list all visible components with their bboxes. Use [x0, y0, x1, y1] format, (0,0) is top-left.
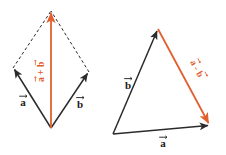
dashed-edge-left [13, 11, 51, 68]
vector-a-arrow-right-diagram [113, 126, 208, 134]
label-vector-a-right-diagram: a [159, 136, 167, 149]
label-vector-b-left-diagram: b [76, 96, 84, 110]
label-vector-a-minus-b: a - b [188, 58, 208, 82]
label-vector-a-minus-b-text: a - b [188, 58, 205, 79]
label-vector-a-left-diagram: a [19, 95, 27, 108]
label-vector-a-plus-b-text: a + b [36, 62, 46, 82]
vector-diagram-figure: a b a + b b [0, 0, 226, 155]
label-vector-b-right-diagram: b [124, 77, 132, 91]
diagram-left-group: a b a + b [13, 11, 89, 128]
vector-b-arrow-right-diagram [113, 31, 157, 134]
label-vector-b-left-text: b [77, 98, 83, 110]
diagram-right-group: b a a - b [113, 29, 209, 149]
label-vector-a-right-text: a [160, 137, 166, 149]
label-vector-b-right-text: b [125, 79, 131, 91]
label-vector-a-plus-b: a + b [35, 60, 47, 82]
dashed-edge-right [51, 11, 89, 72]
vector-diagram-canvas: a b a + b b [0, 0, 226, 155]
label-vector-a-left-text: a [20, 96, 26, 108]
